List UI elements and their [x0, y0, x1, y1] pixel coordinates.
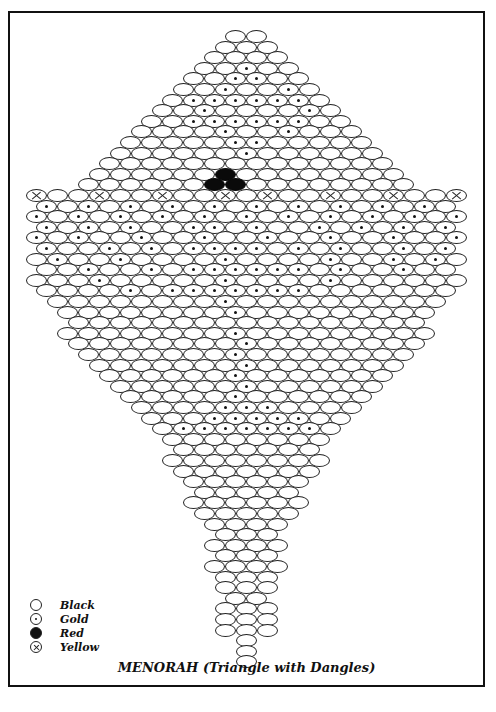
legend-item-gold: Gold — [30, 612, 99, 626]
filled-circle-icon — [30, 627, 42, 639]
color-legend: Black Gold Red Yellow — [30, 598, 99, 654]
legend-label: Red — [60, 627, 84, 640]
legend-label: Gold — [60, 613, 89, 626]
pattern-title: MENORAH (Triangle with Dangles) — [8, 660, 485, 675]
legend-label: Black — [60, 599, 95, 612]
x-circle-icon — [30, 641, 42, 653]
legend-item-red: Red — [30, 626, 99, 640]
bead-black — [215, 624, 236, 637]
legend-item-yellow: Yellow — [30, 640, 99, 654]
legend-item-black: Black — [30, 598, 99, 612]
dot-circle-icon — [30, 613, 42, 625]
legend-label: Yellow — [60, 641, 99, 654]
open-circle-icon — [30, 599, 42, 611]
bead-black — [257, 624, 278, 637]
